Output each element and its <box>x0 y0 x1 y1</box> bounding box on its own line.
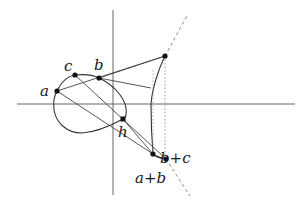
label-h: h <box>118 123 128 141</box>
branch-dashed-upper <box>165 14 188 56</box>
elliptic-curve-diagram: a c b h b+c a+b <box>0 0 308 209</box>
point-c <box>72 72 77 77</box>
label-a-plus-b: a+b <box>135 169 166 187</box>
chord-b-top <box>99 56 165 78</box>
point-b-plus-c <box>150 151 155 156</box>
label-b: b <box>94 56 104 74</box>
point-a <box>54 88 59 93</box>
label-a: a <box>40 82 49 100</box>
chord-a-bc <box>57 91 153 154</box>
label-c: c <box>64 57 73 75</box>
point-b <box>96 75 101 80</box>
label-b-plus-c: b+c <box>160 149 191 167</box>
point-top <box>162 53 167 58</box>
point-h <box>121 117 126 122</box>
